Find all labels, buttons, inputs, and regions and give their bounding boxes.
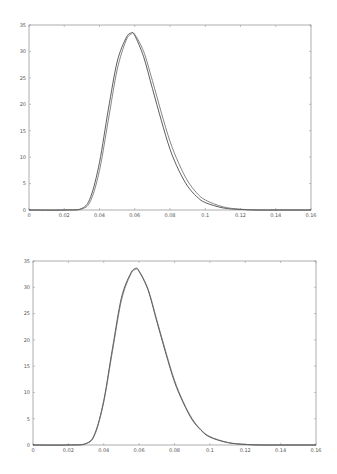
series-line-2 bbox=[33, 269, 316, 445]
x-tick-label: 0.04 bbox=[94, 212, 105, 218]
x-tick-label: 0.02 bbox=[59, 212, 70, 218]
y-tick-label: 20 bbox=[20, 101, 26, 107]
x-tick-label: 0.1 bbox=[206, 447, 214, 453]
bottom-chart-panel: 00.020.040.060.080.10.120.140.1605101520… bbox=[24, 258, 322, 453]
y-tick-label: 0 bbox=[23, 207, 26, 213]
y-tick-label: 25 bbox=[24, 310, 30, 316]
chart-canvas: 00.020.040.060.080.10.120.140.1605101520… bbox=[0, 0, 337, 474]
y-tick-label: 25 bbox=[20, 75, 26, 81]
x-tick-label: 0.06 bbox=[134, 447, 145, 453]
x-tick-label: 0.1 bbox=[201, 212, 209, 218]
y-tick-label: 30 bbox=[20, 48, 26, 54]
y-tick-label: 35 bbox=[20, 22, 26, 28]
x-tick-label: 0.14 bbox=[275, 447, 286, 453]
y-tick-label: 10 bbox=[20, 154, 26, 160]
series-line-1 bbox=[33, 268, 316, 445]
x-tick-label: 0.16 bbox=[305, 212, 316, 218]
y-tick-label: 0 bbox=[27, 442, 30, 448]
y-tick-label: 5 bbox=[27, 416, 30, 422]
y-tick-label: 15 bbox=[20, 128, 26, 134]
y-tick-label: 20 bbox=[24, 337, 30, 343]
x-tick-label: 0.12 bbox=[240, 447, 251, 453]
plot-frame bbox=[29, 25, 311, 210]
y-tick-label: 30 bbox=[24, 284, 30, 290]
x-tick-label: 0.08 bbox=[169, 447, 180, 453]
y-tick-label: 10 bbox=[24, 389, 30, 395]
x-tick-label: 0.12 bbox=[235, 212, 246, 218]
y-tick-label: 35 bbox=[24, 258, 30, 264]
y-tick-label: 15 bbox=[24, 363, 30, 369]
series-line-2 bbox=[29, 33, 311, 210]
x-tick-label: 0 bbox=[31, 447, 34, 453]
series-line-1 bbox=[29, 33, 311, 211]
x-tick-label: 0.04 bbox=[98, 447, 109, 453]
x-tick-label: 0.06 bbox=[129, 212, 140, 218]
x-tick-label: 0.14 bbox=[270, 212, 281, 218]
top-chart-panel: 00.020.040.060.080.10.120.140.1605101520… bbox=[20, 22, 317, 218]
x-tick-label: 0.16 bbox=[310, 447, 321, 453]
y-tick-label: 5 bbox=[23, 180, 26, 186]
x-tick-label: 0 bbox=[27, 212, 30, 218]
x-tick-label: 0.02 bbox=[63, 447, 74, 453]
x-tick-label: 0.08 bbox=[164, 212, 175, 218]
plot-frame bbox=[33, 261, 316, 445]
